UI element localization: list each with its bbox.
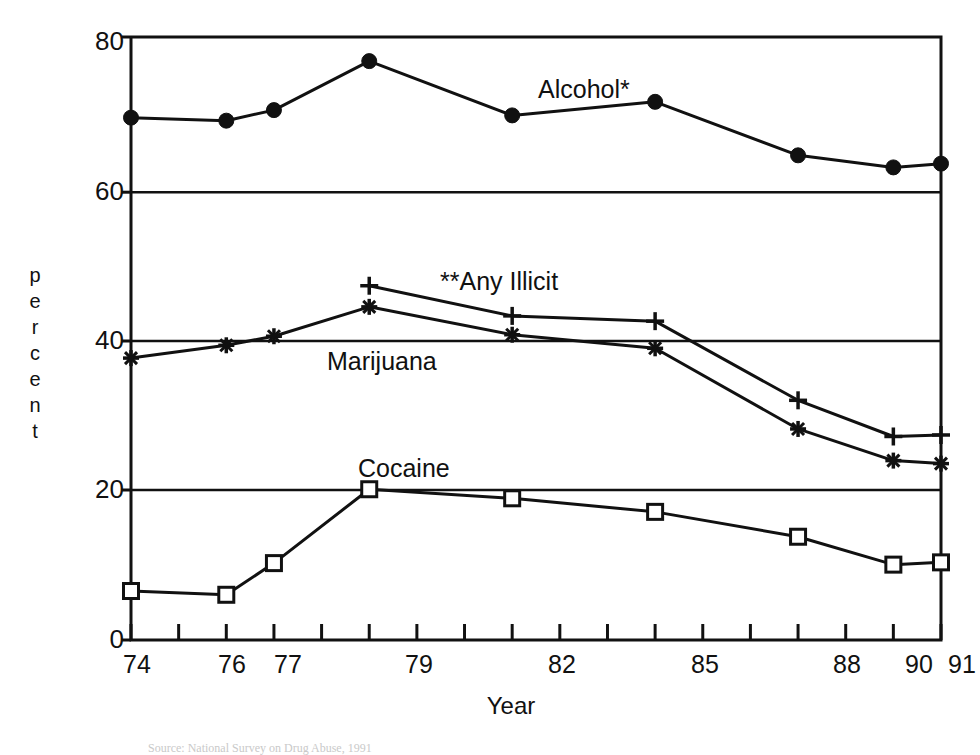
data-point-marker — [934, 156, 949, 171]
x-tick-label-76: 76 — [218, 650, 246, 678]
data-point-marker — [219, 113, 234, 128]
series-label-cocaine: Cocaine — [358, 455, 450, 481]
axis-frame — [131, 37, 941, 640]
x-tick-label-74: 74 — [123, 650, 151, 678]
data-point-marker — [886, 557, 901, 572]
x-tick-label-85: 85 — [691, 650, 719, 678]
x-axis-title: Year — [487, 692, 536, 719]
x-tick-label-82: 82 — [548, 650, 576, 678]
x-tick-label-88: 88 — [833, 650, 861, 678]
data-point-marker — [266, 556, 281, 571]
data-point-marker — [648, 94, 663, 109]
series-line — [131, 307, 941, 464]
data-point-marker — [124, 584, 139, 599]
x-tick-label-79: 79 — [405, 650, 433, 678]
series-line — [131, 489, 941, 595]
plot-area — [0, 0, 980, 755]
chart-figure: p e r c e n t 0 20 40 60 80 — [0, 0, 980, 755]
series-label-any-illicit: **Any Illicit — [440, 268, 558, 294]
x-tick-label-90: 90 — [905, 650, 933, 678]
series-label-alcohol: Alcohol* — [538, 76, 630, 102]
data-point-marker — [505, 491, 520, 506]
series-cocaine — [124, 482, 949, 603]
series-line — [131, 61, 941, 167]
x-axis-title-row: Year — [0, 692, 980, 720]
data-point-marker — [886, 160, 901, 175]
x-axis-ticks — [131, 624, 941, 640]
data-point-marker — [791, 529, 806, 544]
data-point-marker — [648, 504, 663, 519]
x-tick-label-91: 91 — [948, 650, 976, 678]
data-point-marker — [934, 555, 949, 570]
source-note: Source: National Survey on Drug Abuse, 1… — [148, 741, 372, 755]
series-layer — [123, 54, 950, 603]
data-point-marker — [219, 587, 234, 602]
data-point-marker — [266, 103, 281, 118]
data-point-marker — [362, 54, 377, 69]
data-point-marker — [505, 108, 520, 123]
series-anyillicit — [360, 277, 950, 446]
series-alcohol — [124, 54, 949, 175]
series-label-marijuana: Marijuana — [327, 348, 437, 374]
data-point-marker — [791, 148, 806, 163]
x-tick-label-77: 77 — [274, 650, 302, 678]
series-line — [369, 286, 941, 437]
data-point-marker — [124, 110, 139, 125]
data-point-marker — [362, 482, 377, 497]
series-marijuana — [123, 299, 949, 472]
